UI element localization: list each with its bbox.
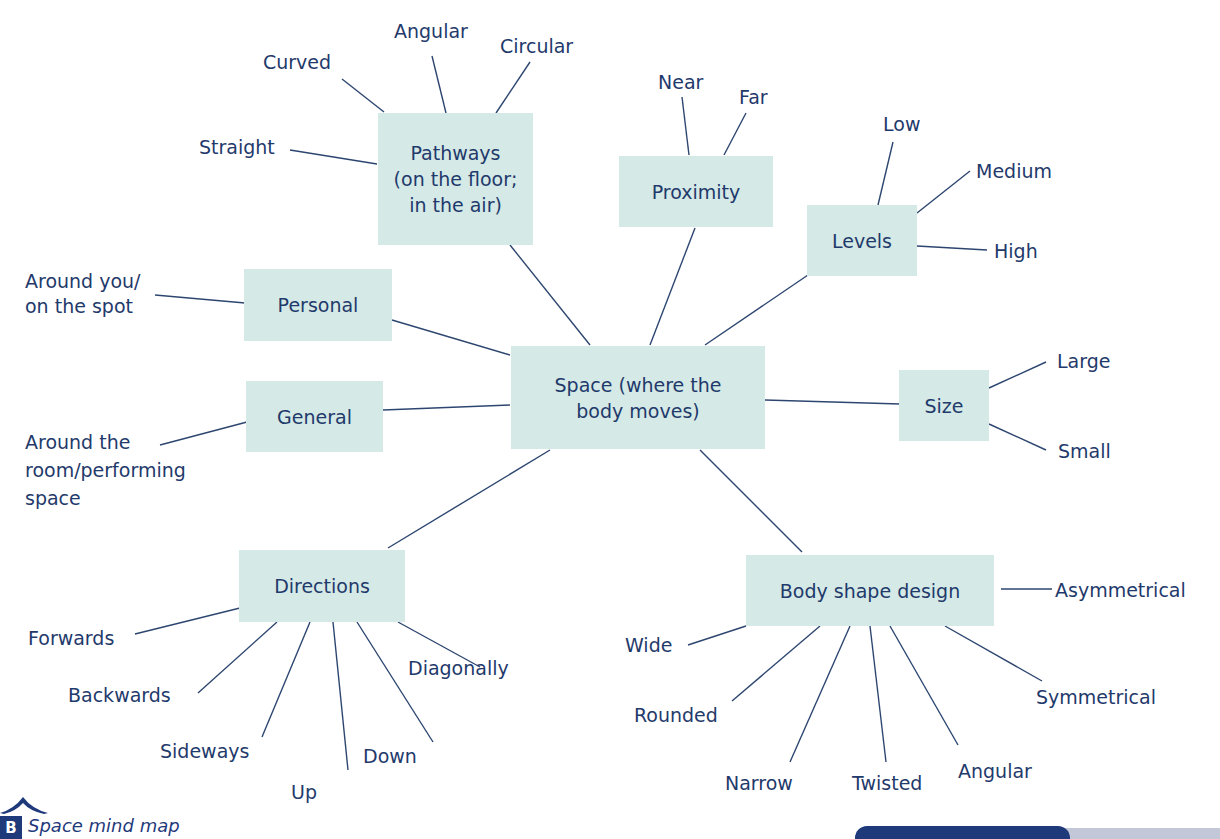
leaf-around-you-line2: on the spot xyxy=(25,294,133,319)
leaf-large: Large xyxy=(1057,349,1110,374)
branch-node-body-shape-design: Body shape design xyxy=(746,555,994,626)
proximity-label: Proximity xyxy=(652,179,741,205)
leaf-near: Near xyxy=(658,70,703,95)
leaf-circular: Circular xyxy=(500,34,573,59)
branch-node-directions: Directions xyxy=(239,550,405,622)
directions-label: Directions xyxy=(274,573,370,599)
leaf-around-room-line3: space xyxy=(25,486,81,511)
figure-badge: B xyxy=(0,816,22,839)
leaf-far: Far xyxy=(739,85,768,110)
leaf-forwards: Forwards xyxy=(28,626,114,651)
leaf-around-room-line1: Around the xyxy=(25,430,130,455)
leaf-straight: Straight xyxy=(199,135,275,160)
footer-dark-tab xyxy=(855,826,1070,839)
pathways-label-line1: Pathways xyxy=(410,140,500,166)
leaf-angular-pathway: Angular xyxy=(394,19,468,44)
personal-label: Personal xyxy=(278,292,359,318)
center-node-space: Space (where the body moves) xyxy=(511,346,765,449)
leaf-down: Down xyxy=(363,744,417,769)
leaf-backwards: Backwards xyxy=(68,683,171,708)
leaf-around-you-line1: Around you/ xyxy=(25,269,141,294)
branch-node-proximity: Proximity xyxy=(619,156,773,227)
leaf-around-room-line2: room/performing xyxy=(25,458,186,483)
branch-node-general: General xyxy=(246,381,383,452)
leaf-sideways: Sideways xyxy=(160,739,249,764)
leaf-low: Low xyxy=(883,112,920,137)
leaf-symmetrical: Symmetrical xyxy=(1036,685,1156,710)
pathways-label-line2: (on the floor; xyxy=(394,166,518,192)
levels-label: Levels xyxy=(832,228,892,254)
leaf-twisted: Twisted xyxy=(852,771,922,796)
figure-caption: Space mind map xyxy=(28,815,180,836)
body-shape-label: Body shape design xyxy=(780,578,960,604)
leaf-small: Small xyxy=(1058,439,1111,464)
leaf-asymmetrical: Asymmetrical xyxy=(1055,578,1186,603)
branch-node-levels: Levels xyxy=(807,205,917,276)
roof-icon xyxy=(0,795,50,815)
center-label-line1: Space (where the xyxy=(555,372,722,398)
leaf-wide: Wide xyxy=(625,633,672,658)
leaf-narrow: Narrow xyxy=(725,771,793,796)
leaf-high: High xyxy=(994,239,1038,264)
branch-node-size: Size xyxy=(899,370,989,441)
branch-node-personal: Personal xyxy=(244,269,392,341)
leaf-diagonally: Diagonally xyxy=(408,656,509,681)
center-label-line2: body moves) xyxy=(576,398,699,424)
size-label: Size xyxy=(924,393,963,419)
branch-node-pathways: Pathways (on the floor; in the air) xyxy=(378,113,533,245)
leaf-rounded: Rounded xyxy=(634,703,718,728)
pathways-label-line3: in the air) xyxy=(409,192,502,218)
general-label: General xyxy=(277,404,352,430)
page-footer-decoration xyxy=(855,826,1220,839)
leaf-up: Up xyxy=(291,780,317,805)
leaf-angular-body: Angular xyxy=(958,759,1032,784)
footer-dotted-strip xyxy=(1060,828,1220,839)
leaf-medium: Medium xyxy=(976,159,1052,184)
leaf-curved: Curved xyxy=(263,50,331,75)
